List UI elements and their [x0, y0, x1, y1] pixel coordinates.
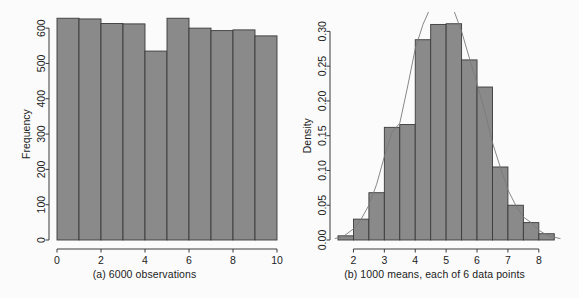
- histogram-bar: [400, 125, 415, 240]
- bars-group: [57, 18, 277, 240]
- histogram-bar: [384, 127, 399, 240]
- y-tick-label: 200: [35, 160, 47, 178]
- y-tick-label: 300: [35, 125, 47, 143]
- x-tick-label: 4: [412, 254, 418, 266]
- panel-a-plot: 0100200300400500600Frequency0246810: [0, 0, 289, 268]
- histogram-bar: [523, 223, 538, 240]
- histogram-bar: [123, 24, 145, 240]
- x-tick-label: 5: [443, 254, 449, 266]
- figure-container: 0100200300400500600Frequency0246810 (a) …: [0, 0, 579, 298]
- x-tick-label: 10: [271, 254, 283, 266]
- histogram-bar: [462, 60, 477, 240]
- histogram-bar: [492, 167, 507, 240]
- panel-b-histogram: 0.000.050.100.150.200.250.30Density23456…: [290, 0, 579, 298]
- y-tick-label: 0.05: [316, 195, 328, 216]
- histogram-bar: [167, 18, 189, 240]
- x-tick-label: 4: [142, 254, 148, 266]
- x-tick-label: 6: [474, 254, 480, 266]
- plot-area: 0100200300400500600Frequency0246810: [20, 18, 283, 266]
- plot-area: 0.000.050.100.150.200.250.30Density23456…: [301, 0, 561, 266]
- panel-b-caption: (b) 1000 means, each of 6 data points: [290, 268, 579, 280]
- histogram-bar: [211, 31, 233, 240]
- histogram-bar: [338, 236, 353, 240]
- x-tick-label: 2: [351, 254, 357, 266]
- y-axis-title: Frequency: [20, 109, 32, 159]
- histogram-bar: [431, 24, 446, 240]
- x-tick-label: 8: [536, 254, 542, 266]
- y-tick-label: 0.25: [316, 56, 328, 77]
- y-tick-label: 100: [35, 196, 47, 214]
- histogram-bar: [145, 51, 167, 240]
- y-tick-label: 400: [35, 90, 47, 108]
- histogram-bar: [353, 219, 368, 240]
- y-tick-label: 600: [35, 19, 47, 37]
- y-tick-label: 0.10: [316, 160, 328, 181]
- x-tick-label: 8: [230, 254, 236, 266]
- histogram-bar: [79, 19, 101, 240]
- histogram-bar: [233, 30, 255, 240]
- histogram-bar: [189, 28, 211, 240]
- histogram-bar: [446, 24, 461, 240]
- x-tick-label: 6: [186, 254, 192, 266]
- x-tick-label: 2: [98, 254, 104, 266]
- panel-a-histogram: 0100200300400500600Frequency0246810 (a) …: [0, 0, 289, 298]
- x-tick-label: 7: [505, 254, 511, 266]
- y-axis-title: Density: [301, 117, 313, 153]
- histogram-bar: [508, 205, 523, 240]
- histogram-bar: [415, 40, 430, 240]
- histogram-bar: [57, 18, 79, 240]
- x-tick-label: 0: [54, 254, 60, 266]
- y-tick-label: 500: [35, 55, 47, 73]
- bars-group: [338, 24, 554, 240]
- histogram-bar: [101, 24, 123, 240]
- panel-b-plot: 0.000.050.100.150.200.250.30Density23456…: [290, 0, 579, 268]
- y-tick-label: 0.15: [316, 125, 328, 146]
- y-tick-label: 0: [35, 237, 47, 243]
- histogram-bar: [255, 36, 277, 240]
- y-tick-label: 0.20: [316, 91, 328, 112]
- panel-a-caption: (a) 6000 observations: [0, 268, 289, 280]
- y-tick-label: 0.00: [316, 230, 328, 251]
- y-tick-label: 0.30: [316, 21, 328, 42]
- x-tick-label: 3: [381, 254, 387, 266]
